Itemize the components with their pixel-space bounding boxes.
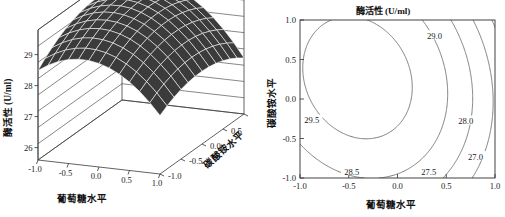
surface-yaxis-title-text: 碳酸铵水平 bbox=[201, 129, 246, 171]
surface-plot-panel: -1.0-0.50.00.51.0-1.0-0.50.00.51.0262728… bbox=[0, 0, 253, 217]
contour-yaxis-tick-label-3: 0.5 bbox=[285, 55, 296, 65]
contour-level-label-29.5: 29.5 bbox=[304, 115, 319, 125]
contour-yaxis-tick-label-2: 0.0 bbox=[285, 94, 296, 104]
surface-zaxis-tick-label-2: 28 bbox=[24, 81, 33, 91]
surface-yaxis-title: 碳酸铵水平 bbox=[201, 129, 246, 171]
surface-xaxis-tick-label-3: 0.5 bbox=[121, 175, 132, 185]
surface-floor-edge bbox=[38, 100, 244, 160]
surface-xaxis-tick-label-4: 1.0 bbox=[152, 178, 163, 188]
surface-plot-mesh bbox=[38, 0, 244, 115]
contour-level-label-29.0: 29.0 bbox=[427, 31, 442, 41]
contour-yaxis-title-text: 碳酸铵水平 bbox=[266, 78, 277, 128]
contour-xaxis-tick-label-4: 1.0 bbox=[490, 181, 501, 191]
contour-level-label-27.0: 27.0 bbox=[468, 152, 483, 162]
surface-xaxis-tick-label-2: 0.0 bbox=[91, 171, 102, 181]
contour-level-labels: 29.529.028.528.027.527.0 bbox=[301, 30, 486, 177]
contour-level-label-28.5: 28.5 bbox=[344, 167, 359, 177]
contour-level-label-28.0: 28.0 bbox=[458, 116, 473, 126]
surface-yaxis-tick-label-1: -0.5 bbox=[189, 156, 203, 166]
surface-zaxis-tick-label-1: 27 bbox=[24, 112, 33, 122]
contour-plot-panel: 酶活性 (U/ml) -1.0-0.50.00.51.0-1.0-0.50.00… bbox=[253, 0, 505, 217]
surface-yaxis-tickmark-4 bbox=[244, 114, 248, 116]
surface-xaxis-title: 葡萄糖水平 bbox=[56, 193, 107, 204]
surface-xaxis-tick-label-1: -0.5 bbox=[59, 168, 73, 178]
contour-plot-title: 酶活性 (U/ml) bbox=[356, 5, 411, 16]
contour-yaxis-title: 碳酸铵水平 bbox=[266, 78, 277, 128]
surface-plot-svg: -1.0-0.50.00.51.0-1.0-0.50.00.51.0262728… bbox=[0, 0, 253, 217]
surface-yaxis-tickmark-3 bbox=[223, 129, 227, 131]
surface-yaxis-tick-label-0: -1.0 bbox=[168, 171, 182, 181]
surface-left-wall-gridline-1 bbox=[38, 84, 122, 144]
contour-yaxis-tick-label-0: -1.0 bbox=[282, 173, 296, 183]
contour-xaxis-title: 葡萄糖水平 bbox=[365, 199, 416, 210]
contour-tick-labels: -1.0-0.50.00.51.0-1.0-0.50.00.51.0 bbox=[282, 15, 500, 191]
contour-xaxis-tick-label-1: -0.5 bbox=[342, 181, 356, 191]
contour-plot-svg: 酶活性 (U/ml) -1.0-0.50.00.51.0-1.0-0.50.00… bbox=[253, 0, 505, 217]
contour-yaxis-tick-label-4: 1.0 bbox=[285, 15, 296, 25]
contour-line-27.5 bbox=[492, 20, 495, 27]
surface-zaxis-tick-label-3: 29 bbox=[24, 50, 33, 60]
surface-zaxis-title-text: 酶活性 (U/ml) bbox=[2, 79, 14, 138]
surface-yaxis-tickmark-2 bbox=[202, 144, 206, 146]
surface-zaxis-title: 酶活性 (U/ml) bbox=[2, 79, 14, 138]
contour-level-label-27.5: 27.5 bbox=[421, 167, 436, 177]
contour-line-29.0 bbox=[379, 20, 447, 178]
contour-xaxis-tick-label-2: 0.0 bbox=[392, 181, 403, 191]
surface-yaxis-tickmark-0 bbox=[160, 174, 164, 176]
surface-yaxis-tickmark-1 bbox=[181, 159, 185, 161]
contour-xaxis-tick-label-3: 0.5 bbox=[441, 181, 452, 191]
contour-yaxis-tick-label-1: -0.5 bbox=[282, 134, 296, 144]
surface-zaxis-tick-label-0: 26 bbox=[24, 143, 33, 153]
surface-left-wall-gridline-2 bbox=[38, 67, 122, 127]
surface-xaxis-tick-label-0: -1.0 bbox=[28, 164, 42, 174]
figure-container: -1.0-0.50.00.51.0-1.0-0.50.00.51.0262728… bbox=[0, 0, 505, 217]
